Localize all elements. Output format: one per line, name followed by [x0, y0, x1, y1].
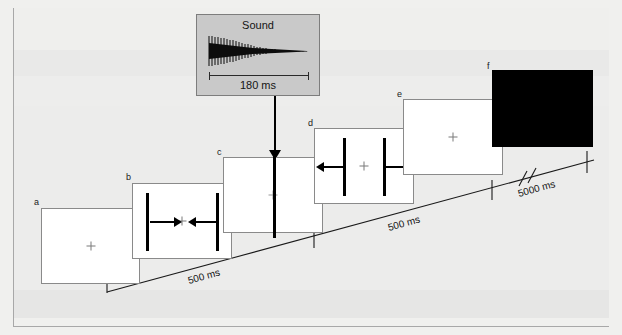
background-strip	[14, 290, 609, 318]
arrowhead-right-icon	[174, 217, 182, 227]
paradigm-figure: 500 ms 500 ms 5000 ms a b Sound	[0, 0, 622, 335]
sound-inset: Sound	[196, 14, 320, 96]
sound-title: Sound	[197, 19, 319, 31]
stimulus-panel-f	[492, 70, 593, 147]
stimulus-panel-b	[132, 183, 232, 259]
motion-arrow-outward-left	[324, 166, 344, 168]
stimulus-bar-left	[146, 193, 149, 251]
motion-arrow-inward-left	[150, 221, 175, 223]
stimulus-bar-right	[216, 193, 219, 251]
panel-label-d: d	[308, 119, 313, 128]
stimulus-panel-d	[314, 128, 414, 204]
stimulus-panel-a	[41, 208, 140, 284]
stimulus-panel-e	[403, 99, 503, 175]
stimulus-bar-center	[273, 156, 276, 238]
panel-label-e: e	[397, 90, 402, 99]
sound-waveform	[207, 34, 311, 68]
fixation-cross	[449, 133, 458, 142]
panel-label-f: f	[487, 62, 490, 71]
figure-border-left	[13, 8, 14, 327]
scale-rule	[209, 75, 309, 76]
panel-label-a: a	[34, 198, 39, 207]
sound-duration-label: 180 ms	[197, 79, 319, 91]
fixation-cross	[360, 162, 369, 171]
arrowhead-left-icon	[188, 217, 196, 227]
stimulus-panel-c	[223, 157, 323, 233]
fixation-cross	[86, 242, 95, 251]
sound-to-panel-connector	[274, 96, 276, 154]
figure-border-bottom	[13, 326, 609, 327]
panel-label-c: c	[217, 148, 222, 157]
arrowhead-left-icon	[316, 162, 324, 172]
panel-label-b: b	[126, 173, 131, 182]
